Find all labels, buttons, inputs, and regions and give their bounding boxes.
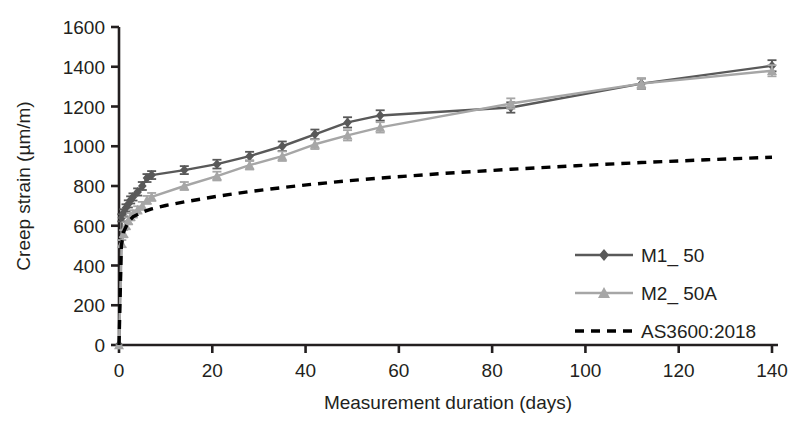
- x-tick-label: 40: [295, 360, 316, 381]
- chart-canvas: 16001400120010008006004002000 0204060801…: [0, 0, 798, 429]
- x-tick-label: 120: [663, 360, 695, 381]
- y-tick-label: 800: [73, 176, 105, 197]
- x-tick-label: 60: [388, 360, 409, 381]
- y-tick-label: 1600: [63, 17, 105, 38]
- x-tick-label: 0: [114, 360, 125, 381]
- x-tick-label: 20: [202, 360, 223, 381]
- creep-strain-chart: 16001400120010008006004002000 0204060801…: [0, 0, 798, 429]
- x-axis-title: Measurement duration (days): [324, 392, 572, 413]
- y-tick-label: 600: [73, 216, 105, 237]
- legend-label: AS3600:2018: [641, 321, 756, 342]
- y-tick-label: 1400: [63, 57, 105, 78]
- y-tick-label: 400: [73, 256, 105, 277]
- legend-label: M2_ 50A: [641, 283, 717, 305]
- y-tick-label: 200: [73, 295, 105, 316]
- y-axis-title: Creep strain (µm/m): [13, 101, 34, 270]
- y-tick-label: 1200: [63, 97, 105, 118]
- x-tick-label: 80: [482, 360, 503, 381]
- x-tick-label: 100: [570, 360, 602, 381]
- legend-label: M1_ 50: [641, 245, 704, 267]
- y-tick-label: 1000: [63, 136, 105, 157]
- y-tick-label: 0: [94, 335, 105, 356]
- x-tick-label: 140: [756, 360, 788, 381]
